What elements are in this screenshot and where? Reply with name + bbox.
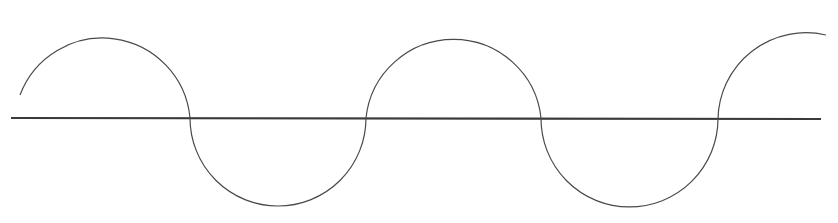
- semicircle-arc-2: [190, 118, 366, 206]
- horizontal-axis: [11, 118, 821, 119]
- semicircle-arc-1: [20, 38, 190, 118]
- wave-diagram: [0, 0, 838, 223]
- semicircle-arc-5: [718, 33, 826, 119]
- semicircle-arc-4: [541, 118, 718, 207]
- semicircle-arc-3: [366, 39, 541, 118]
